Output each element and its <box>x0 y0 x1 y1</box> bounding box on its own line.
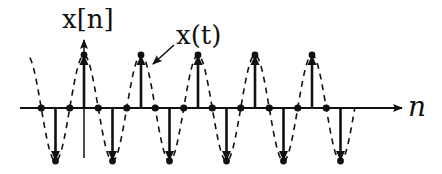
vertical-axis-label: x[n] <box>62 4 114 34</box>
sample-stem <box>336 108 345 164</box>
sample-stem <box>66 104 73 111</box>
sample-dot <box>180 104 187 111</box>
sample-dot <box>323 104 330 111</box>
sample-stem <box>165 108 174 164</box>
sample-stem <box>152 104 159 111</box>
sample-dot <box>209 104 216 111</box>
sample-stem <box>180 104 187 111</box>
sample-dot <box>280 158 287 165</box>
sample-dot <box>123 104 130 111</box>
curve-pointer-arrow <box>153 45 174 64</box>
sample-dot <box>337 158 344 165</box>
sample-dot <box>109 158 116 165</box>
sample-dot <box>252 52 259 59</box>
sample-dot <box>38 104 45 111</box>
sample-dot <box>237 104 244 111</box>
sample-stem <box>123 104 130 111</box>
sample-dot <box>52 158 59 165</box>
sample-dot <box>138 52 145 59</box>
sample-dot <box>81 52 88 59</box>
sample-dot <box>266 104 273 111</box>
sample-stem <box>95 104 102 111</box>
sample-dot <box>223 158 230 165</box>
sample-stem <box>137 52 146 108</box>
sample-stem <box>266 104 273 111</box>
sample-dot <box>95 104 102 111</box>
sample-dot <box>195 52 202 59</box>
sample-stem <box>294 104 301 111</box>
sample-stem <box>237 104 244 111</box>
sample-dot <box>294 104 301 111</box>
sample-dot <box>152 104 159 111</box>
sample-stem <box>38 104 45 111</box>
sample-stem <box>323 104 330 111</box>
sample-dot <box>309 52 316 59</box>
curve-label: x(t) <box>176 20 221 50</box>
sampled-sinusoid-diagram: x[n] x(t) n <box>0 0 442 174</box>
sample-dot <box>166 158 173 165</box>
horizontal-axis-label: n <box>408 90 426 123</box>
sample-dot <box>66 104 73 111</box>
sample-stem <box>209 104 216 111</box>
